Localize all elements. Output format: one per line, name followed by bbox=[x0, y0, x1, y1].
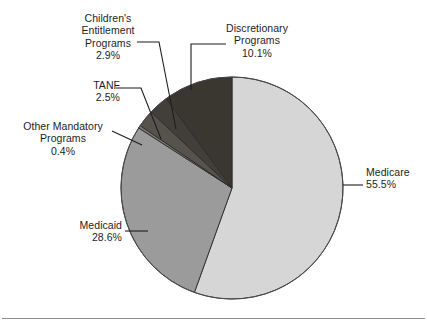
slice-label-line: Medicaid bbox=[36, 219, 122, 231]
slice-label-medicare: Medicare 55.5% bbox=[366, 166, 424, 191]
slice-label-line: Discretionary bbox=[207, 22, 307, 34]
slice-value-other-mandatory-programs: 0.4% bbox=[6, 145, 120, 157]
slice-label-line: TANF bbox=[32, 79, 120, 91]
slice-label-line: Programs bbox=[56, 37, 160, 49]
slice-label-line: Medicare bbox=[366, 166, 424, 178]
bottom-divider-rule bbox=[2, 318, 425, 319]
slice-value-tanf: 2.5% bbox=[32, 91, 120, 103]
pie-chart-figure: Children's Entitlement Programs 2.9% TAN… bbox=[0, 0, 427, 326]
slice-value-medicare: 55.5% bbox=[366, 178, 424, 190]
pie-slices-group bbox=[121, 77, 343, 299]
slice-label-line: Programs bbox=[6, 132, 120, 144]
slice-label-tanf: TANF 2.5% bbox=[32, 79, 120, 104]
slice-value-discretionary-programs: 10.1% bbox=[207, 47, 307, 59]
slice-label-line: Children's bbox=[56, 12, 160, 24]
slice-label-line: Other Mandatory bbox=[6, 120, 120, 132]
slice-label-medicaid: Medicaid 28.6% bbox=[36, 219, 122, 244]
slice-value-children-entitlement-programs: 2.9% bbox=[56, 49, 160, 61]
slice-label-line: Programs bbox=[207, 34, 307, 46]
slice-label-discretionary-programs: Discretionary Programs 10.1% bbox=[207, 22, 307, 59]
slice-label-other-mandatory-programs: Other Mandatory Programs 0.4% bbox=[6, 120, 120, 157]
slice-label-children-entitlement-programs: Children's Entitlement Programs 2.9% bbox=[56, 12, 160, 62]
slice-label-line: Entitlement bbox=[56, 24, 160, 36]
slice-value-medicaid: 28.6% bbox=[36, 231, 122, 243]
